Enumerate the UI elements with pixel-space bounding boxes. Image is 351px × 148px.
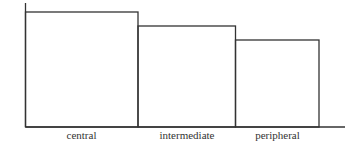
category-label-central: central bbox=[25, 129, 138, 141]
category-label-peripheral: peripheral bbox=[236, 129, 319, 141]
category-label-intermediate: intermediate bbox=[138, 129, 236, 141]
bar-central bbox=[26, 12, 139, 127]
bar-peripheral bbox=[236, 40, 320, 127]
bar-chart bbox=[0, 0, 351, 148]
bar-intermediate bbox=[138, 26, 236, 127]
